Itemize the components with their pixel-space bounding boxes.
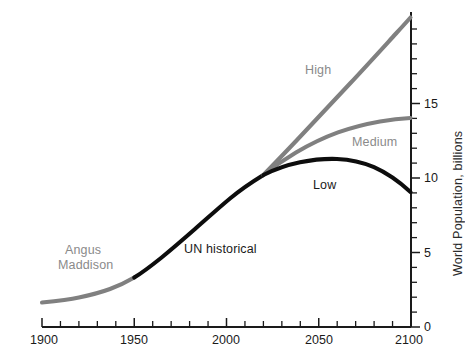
series-label-angus-maddison-line2: Maddison — [58, 258, 113, 273]
x-tick-label-2000: 2000 — [212, 333, 240, 347]
y-axis-minor-ticks — [411, 29, 417, 312]
y-axis-title: World Population, billions — [451, 131, 465, 276]
y-tick-label-0: 0 — [424, 320, 431, 334]
x-tick-label-1950: 1950 — [120, 333, 148, 347]
series-label-high: High — [305, 63, 331, 78]
series-label-low: Low — [313, 178, 336, 193]
x-tick-label-1900: 1900 — [30, 333, 58, 347]
series-line-high — [263, 18, 410, 176]
y-tick-label-5: 5 — [424, 246, 431, 260]
series-line-un-historical — [134, 175, 263, 278]
y-tick-label-15: 15 — [424, 97, 438, 111]
series-label-medium: Medium — [352, 135, 397, 150]
axis-lines — [42, 12, 411, 327]
series-line-angus-maddison — [42, 278, 134, 303]
series-label-angus-maddison-line1: Angus — [65, 243, 101, 258]
x-tick-label-2100: 2100 — [395, 333, 423, 347]
series-label-un-historical: UN historical — [184, 242, 257, 257]
y-axis-major-ticks — [411, 104, 420, 328]
x-tick-label-2050: 2050 — [305, 333, 333, 347]
y-tick-label-10: 10 — [424, 171, 438, 185]
series-line-low — [263, 159, 410, 192]
